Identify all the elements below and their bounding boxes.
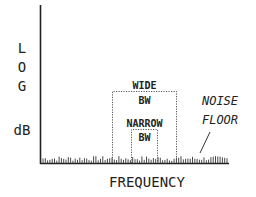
y-label-db: dB <box>14 122 31 138</box>
narrow-label: NARROW <box>126 118 163 129</box>
y-label-o: O <box>18 59 26 75</box>
wide-bw-label: BW <box>138 95 151 106</box>
noise-label: NOISE <box>201 94 239 108</box>
y-label-g: G <box>18 78 26 94</box>
noise-floor-ticks <box>43 156 227 163</box>
wide-label: WIDE <box>132 80 156 91</box>
noise-floor-diagram: L O G dB WIDE BW NARROW BW NOISE FLOOR F… <box>0 0 256 197</box>
x-axis-label: FREQUENCY <box>109 174 185 190</box>
y-label-l: L <box>18 40 26 56</box>
noise-floor-arrow-line <box>200 132 210 153</box>
floor-label: FLOOR <box>202 113 238 127</box>
narrow-bw-label: BW <box>138 132 151 143</box>
